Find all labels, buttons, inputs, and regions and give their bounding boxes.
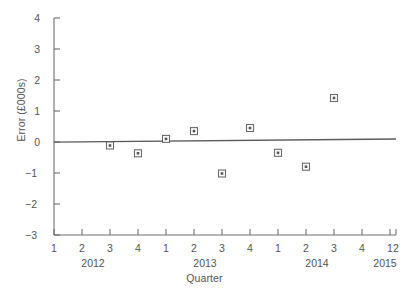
y-axis-ticks (54, 18, 60, 235)
data-point-2012-q3 (107, 142, 114, 149)
reference-line (54, 139, 396, 142)
scatter-chart: Error (£000s) Quarter 4 3 2 1 0 −1 −2 −3… (0, 0, 409, 296)
plot-area (0, 0, 409, 296)
data-point-2014-q3 (331, 95, 338, 102)
data-point-2014-q1 (275, 149, 282, 156)
data-point-2013-q3 (219, 170, 226, 177)
data-point-2014-q2 (303, 163, 310, 170)
data-point-2013-q2 (191, 128, 198, 135)
x-axis-ticks (54, 229, 396, 235)
data-point-2013-q1 (163, 135, 170, 142)
data-point-2012-q4 (135, 150, 142, 157)
data-point-markers (107, 95, 338, 178)
data-point-2013-q4 (247, 125, 254, 132)
